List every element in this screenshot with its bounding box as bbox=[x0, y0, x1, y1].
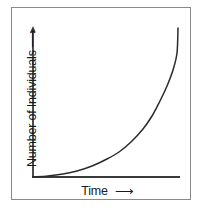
exponential-growth-figure: Number of Individuals ⟶ Time ⟶ bbox=[0, 0, 203, 210]
y-axis-arrowhead-icon bbox=[30, 26, 36, 33]
plot-area bbox=[0, 0, 203, 210]
exponential-growth-curve bbox=[33, 28, 178, 177]
x-axis-label: Time ⟶ bbox=[32, 182, 182, 200]
x-axis-label-text: Time bbox=[81, 184, 108, 198]
x-axis-label-arrow-icon: ⟶ bbox=[115, 185, 133, 198]
